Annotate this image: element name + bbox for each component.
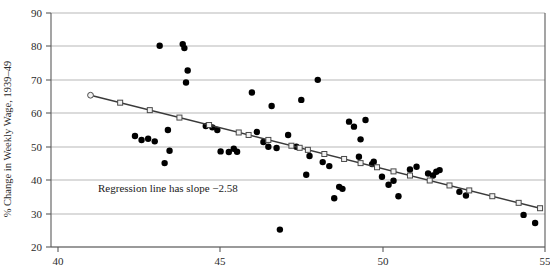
x-tick-label-45: 45 (215, 255, 227, 267)
x-axis-ticks (58, 247, 545, 252)
data-point (152, 138, 158, 144)
regression-line-marker (375, 165, 380, 170)
regression-line-marker (516, 200, 521, 205)
data-point (268, 103, 274, 109)
data-point (351, 123, 357, 129)
y-tick-label-30: 30 (31, 208, 43, 220)
data-point (298, 97, 304, 103)
regression-line-marker (88, 92, 94, 98)
scatter-plot-figure: % Change in Weekly Wage, 1939–49 (0, 0, 550, 278)
gridlines (51, 13, 545, 247)
data-point (145, 135, 151, 141)
data-point (357, 136, 363, 142)
y-tick-label-40: 40 (31, 174, 43, 186)
regression-line-marker (342, 156, 347, 161)
regression-line-marker (305, 147, 310, 152)
y-tick-label-90: 90 (31, 7, 43, 19)
y-tick-label-60: 60 (31, 107, 43, 119)
regression-line-marker (289, 143, 294, 148)
data-point (166, 148, 172, 154)
data-point (315, 77, 321, 83)
data-point (520, 212, 526, 218)
data-point (132, 133, 138, 139)
regression-line-marker (538, 206, 543, 211)
regression-line-marker (118, 100, 123, 105)
regression-line-marker (177, 115, 182, 120)
regression-line-marker (467, 188, 472, 193)
x-tick-label-40: 40 (53, 255, 65, 267)
regression-line-marker (391, 169, 396, 174)
data-point (285, 132, 291, 138)
data-point (326, 163, 332, 169)
data-point (320, 159, 326, 165)
data-point (385, 182, 391, 188)
y-axis-title: % Change in Weekly Wage, 1939–49 (2, 61, 13, 218)
data-point (371, 159, 377, 165)
y-tick-label-20: 20 (31, 241, 43, 253)
y-tick-label-50: 50 (31, 141, 43, 153)
data-point (413, 164, 419, 170)
data-point (303, 172, 309, 178)
y-tick-label-70: 70 (31, 74, 43, 86)
regression-line-marker (297, 145, 302, 150)
data-point (277, 226, 283, 232)
regression-line-marker (147, 108, 152, 113)
data-point (532, 220, 538, 226)
regression-line-marker (358, 161, 363, 166)
data-point (217, 148, 223, 154)
chart-canvas: % Change in Weekly Wage, 1939–49 (0, 0, 550, 278)
data-point (165, 127, 171, 133)
data-point (273, 145, 279, 151)
x-tick-label-50: 50 (378, 255, 390, 267)
data-point (234, 149, 240, 155)
data-point (249, 89, 255, 95)
x-tick-label-55: 55 (540, 255, 550, 267)
data-point (156, 43, 162, 49)
data-point (456, 189, 462, 195)
regression-line-marker (447, 183, 452, 188)
y-axis-tick-labels: 90 80 70 60 50 40 30 20 (31, 7, 43, 253)
data-point (265, 144, 271, 150)
data-point (183, 79, 189, 85)
regression-line-marker (207, 123, 212, 128)
x-axis-tick-labels: 40 45 50 55 (53, 255, 550, 267)
data-point (254, 129, 260, 135)
regression-line-marker (236, 130, 241, 135)
data-point (184, 67, 190, 73)
data-point (362, 117, 368, 123)
regression-slope-annotation: Regression line has slope −2.58 (98, 182, 238, 194)
regression-line-marker (427, 178, 432, 183)
data-point (395, 193, 401, 199)
data-point (356, 154, 362, 160)
regression-line-marker (322, 152, 327, 157)
data-point (390, 178, 396, 184)
regression-line-marker (407, 173, 412, 178)
data-point (436, 167, 442, 173)
y-axis-ticks (46, 13, 51, 247)
y-axis-title-text: % Change in Weekly Wage, 1939–49 (2, 61, 13, 218)
y-tick-label-80: 80 (31, 40, 43, 52)
data-point (306, 153, 312, 159)
data-point (346, 118, 352, 124)
axes (51, 13, 545, 247)
data-point (407, 166, 413, 172)
data-point (331, 195, 337, 201)
regression-line-marker (490, 194, 495, 199)
data-point (339, 186, 345, 192)
data-point (138, 137, 144, 143)
scatter-points-layer (132, 41, 539, 233)
regression-line-marker (246, 132, 251, 137)
data-point (379, 174, 385, 180)
data-point (161, 160, 167, 166)
regression-line-marker (266, 137, 271, 142)
data-point (181, 45, 187, 51)
